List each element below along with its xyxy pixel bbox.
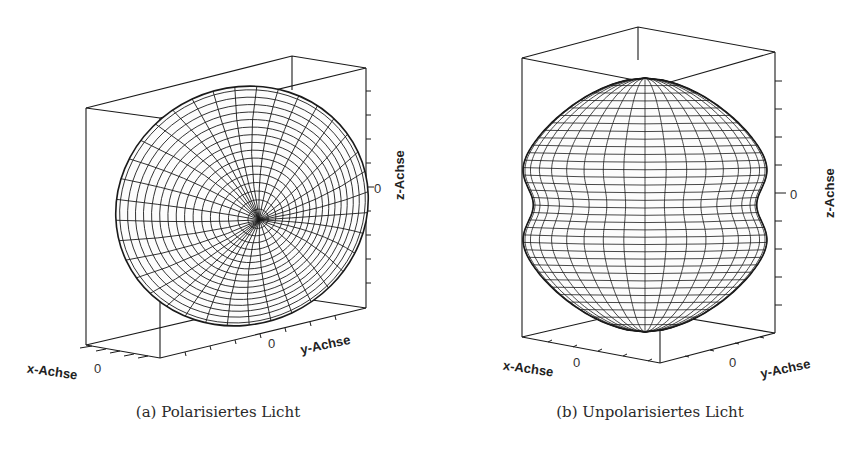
z-tick-zero: 0 [790, 187, 797, 202]
figure-a-polarized: 0 z-Achse 0 x-Achse 0 y-Achse (a) Polari… [0, 0, 430, 454]
peanut-wireframe [523, 78, 767, 332]
ellipsoid-wireframe [76, 45, 408, 367]
x-tick-zero: 0 [573, 355, 580, 370]
z-axis-ticks [775, 81, 786, 305]
y-tick-zero: 0 [268, 336, 275, 351]
figure-caption-b: (b) Unpolarisiertes Licht [556, 403, 743, 421]
y-tick-zero: 0 [729, 355, 736, 370]
z-axis-label: z-Achse [392, 150, 407, 200]
figure-caption-a: (a) Polarisiertes Licht [136, 403, 300, 421]
figure-b-unpolarized: 0 z-Achse 0 x-Achse 0 y-Achse (b) Unpola… [430, 0, 859, 454]
y-axis-ticks [685, 337, 764, 357]
x-axis-ticks [80, 346, 148, 358]
z-axis-label: z-Achse [822, 168, 837, 218]
x-tick-zero: 0 [94, 361, 101, 376]
plot-3d-polarized [0, 0, 430, 454]
x-axis-ticks [548, 340, 652, 361]
z-tick-zero: 0 [374, 181, 381, 196]
plot-3d-unpolarized [430, 0, 859, 454]
